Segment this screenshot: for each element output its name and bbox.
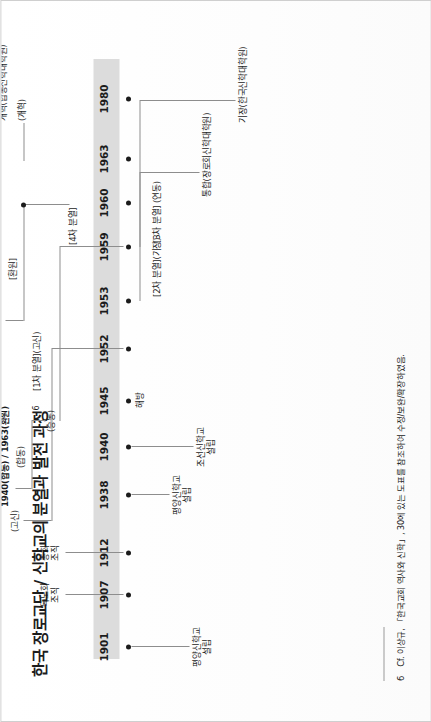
- title-footnote-marker: 6: [32, 406, 41, 411]
- outcome-gijang: 기장(한국신학대학원): [237, 46, 247, 123]
- year-label-1945: 1945: [97, 386, 109, 415]
- year-label-1912: 1912: [97, 538, 109, 567]
- timeline-dot-1940: [126, 445, 131, 450]
- event-label-1912: 총회 조직: [39, 545, 60, 561]
- leader-line-1938: [131, 494, 169, 495]
- event-label-1938: 평양신학교 설립: [171, 475, 192, 514]
- branch-node-gosin: (고신): [9, 510, 19, 532]
- event-label-1940: 조선신학교 설립: [195, 427, 216, 466]
- timeline-dot-1912: [126, 551, 131, 556]
- timeline-dot-1963: [126, 157, 131, 162]
- split1-gosin-riser: [23, 520, 51, 521]
- leader-line-1912: [65, 552, 123, 553]
- page-title-text: 한국 장로교단 / 신학교의 분열과 발전 과정: [31, 411, 49, 677]
- split1-horizontal: [51, 349, 52, 521]
- gijang-connector-h: [139, 101, 140, 301]
- year-label-1953: 1953: [97, 286, 109, 315]
- split1-riser: [51, 348, 123, 349]
- timeline-dot-1945: [126, 399, 131, 404]
- timeline-dot-1953: [126, 299, 131, 304]
- gaehyeok-connector: [23, 123, 24, 161]
- leader-line-1907: [65, 594, 123, 595]
- page-title: 한국 장로교단 / 신학교의 분열과 발전 과정6: [27, 406, 49, 677]
- timeline-dot-1952: [126, 347, 131, 352]
- branch-node-gaehyeok: (개혁): [16, 99, 26, 121]
- year-label-1901: 1901: [97, 632, 109, 661]
- timeline-dot-1901: [126, 645, 131, 650]
- outcome-tonghap: 통합(장로회신학대학원): [201, 113, 211, 197]
- branch-node-hwanwon: [환원]: [7, 258, 17, 280]
- split4-riser: [23, 204, 69, 205]
- document-sheet: 한국 장로교단 / 신학교의 분열과 발전 과정6 1901 1907 1912…: [0, 0, 431, 722]
- split3-horizontal: [59, 247, 60, 421]
- paper-background: [1, 1, 430, 721]
- year-label-1963: 1963: [97, 144, 109, 173]
- footnote-number: 6: [395, 676, 405, 681]
- footnote-text: Cf. 이상규, 「한국교회 역사와 신학」, 30에 있는 도표를 참조하여 …: [395, 354, 405, 667]
- year-label-1959: 1959: [97, 232, 109, 261]
- split4-horizontal: [23, 205, 24, 321]
- scanned-page-frame: 한국 장로교단 / 신학교의 분열과 발전 과정6 1901 1907 1912…: [0, 0, 431, 722]
- tonghap-connector-v: [139, 172, 199, 173]
- leader-line-1901: [131, 646, 189, 647]
- timeline-dot-1980: [126, 97, 131, 102]
- hapdong-riser: [15, 488, 31, 489]
- year-label-1938: 1938: [97, 480, 109, 509]
- timeline-dot-1960: [126, 201, 131, 206]
- timeline-dot-1907: [126, 593, 131, 598]
- hwanwon-riser: [5, 320, 23, 321]
- gijang-connector-v: [139, 100, 235, 101]
- event-label-1907: 독노회 조직: [39, 583, 60, 606]
- leader-line-1940: [131, 446, 193, 447]
- split2-label: [2차 분열](기장): [151, 238, 161, 297]
- hapdong-bridge: [31, 421, 32, 489]
- split3-label: [3차 분열] (연동): [151, 181, 161, 243]
- year-label-1940: 1940: [97, 432, 109, 461]
- branch-node-hapdong: (합동): [15, 446, 25, 468]
- footnote-rule: [383, 627, 384, 681]
- timeline-dot-1959: [126, 245, 131, 250]
- branch-node-seungdong: (승동): [45, 410, 55, 432]
- split1-label: [1차 분열](고신): [31, 332, 41, 391]
- year-label-1907: 1907: [97, 580, 109, 609]
- event-label-1901: 평양신학교 설립: [191, 627, 212, 666]
- split4-label: [4차 분열]: [67, 207, 77, 245]
- event-label-1945: 해방: [134, 392, 144, 408]
- branch-dot-gaehyeok: [21, 203, 26, 208]
- seungdong-riser: [31, 420, 45, 421]
- merge-note-label: 1940(합동) / 1963(환원): [0, 406, 9, 507]
- outcome-gaehyeok: 개혁(합동신학대학원): [0, 44, 7, 121]
- timeline-dot-1938: [126, 493, 131, 498]
- year-label-1980: 1980: [97, 84, 109, 113]
- footnote: 6Cf. 이상규, 「한국교회 역사와 신학」, 30에 있는 도표를 참조하여…: [393, 354, 405, 681]
- year-label-1960: 1960: [97, 188, 109, 217]
- year-label-1952: 1952: [97, 334, 109, 363]
- split3-riser: [59, 246, 123, 247]
